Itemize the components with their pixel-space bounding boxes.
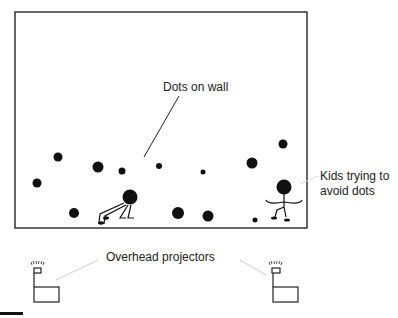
wall-frame (15, 12, 307, 228)
dot (54, 153, 63, 162)
dot (253, 218, 258, 223)
dot (172, 207, 184, 219)
kids-leader-line (300, 176, 318, 184)
label-overhead-projectors: Overhead projectors (106, 250, 215, 265)
dot (119, 168, 126, 175)
label-kids-line1: Kids trying to (320, 169, 389, 184)
dot (201, 170, 206, 175)
dot (279, 140, 288, 149)
projector-leader-left (56, 260, 98, 280)
dot (33, 179, 42, 188)
label-kids-line2: avoid dots (320, 184, 375, 199)
wall-dots (33, 140, 288, 223)
dot (69, 208, 79, 218)
dots-leader-line (144, 96, 179, 157)
projector-leader-right (240, 260, 266, 275)
dot (203, 211, 214, 222)
kid-crouching (98, 190, 138, 225)
dot (247, 158, 258, 169)
scale-bar (0, 312, 23, 315)
label-dots-on-wall: Dots on wall (163, 80, 228, 95)
projector-right (269, 261, 298, 302)
diagram-canvas (0, 0, 398, 318)
dot (93, 162, 104, 173)
kid-standing (266, 180, 302, 222)
projector-left (31, 261, 59, 302)
dot (156, 163, 162, 169)
